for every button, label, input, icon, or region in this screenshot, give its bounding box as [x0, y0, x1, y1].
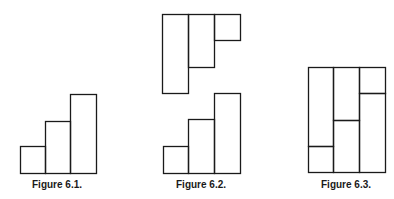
figure-6-2-block-5: [189, 120, 215, 174]
figure-6-1-block-3: [71, 95, 97, 174]
figure-6-3-block-5: [360, 68, 386, 94]
figure-6-3-block-3: [334, 68, 360, 121]
figure-6-2-block-1: [163, 15, 189, 94]
figure-6-2-block-3: [215, 15, 241, 41]
figure-6-3-caption: Figure 6.3.: [321, 179, 371, 190]
figure-6-2-block-6: [215, 94, 241, 174]
figure-6-3-block-1: [309, 68, 334, 147]
figure-6-2-caption: Figure 6.2.: [176, 179, 226, 190]
figure-6-1-diagram: [21, 95, 97, 174]
figure-6-3-block-4: [334, 121, 360, 173]
figure-6-2-diagram: [163, 15, 241, 174]
figure-6-2-block-4: [164, 147, 189, 174]
figure-6-2-block-2: [189, 15, 215, 68]
figure-6-1-caption: Figure 6.1.: [32, 179, 82, 190]
figures-canvas: [0, 0, 394, 199]
figure-6-3-block-2: [309, 147, 334, 173]
figure-6-3-diagram: [309, 68, 386, 173]
figure-6-3-block-6: [360, 94, 386, 173]
figure-6-1-block-1: [21, 147, 46, 174]
figure-6-1-block-2: [46, 122, 71, 174]
